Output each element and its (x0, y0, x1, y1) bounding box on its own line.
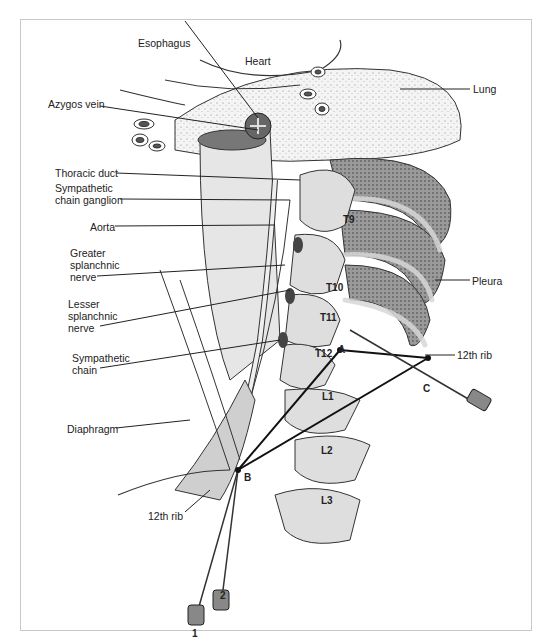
label-sympathetic-chain-1: Sympathetic (72, 352, 130, 364)
label-lung: Lung (473, 83, 496, 95)
label-heart: Heart (245, 55, 271, 67)
label-t12: T12 (315, 348, 332, 359)
label-t11: T11 (320, 312, 337, 323)
label-lesser-splanchnic-1: Lesser (68, 298, 100, 310)
label-greater-splanchnic-1: Greater (70, 247, 106, 259)
needle-label-1: 1 (192, 628, 198, 639)
label-lesser-splanchnic-3: nerve (68, 322, 94, 334)
diaphragm (175, 380, 255, 500)
label-12th-rib-left: 12th rib (148, 510, 183, 522)
label-l2: L2 (321, 445, 333, 456)
label-sympathetic-chain-ganglion-1: Sympathetic (55, 182, 113, 194)
label-pleura: Pleura (472, 275, 502, 287)
label-t10: T10 (326, 282, 343, 293)
label-diaphragm: Diaphragm (67, 423, 118, 435)
needle-hub-c (466, 388, 492, 411)
label-l3: L3 (321, 495, 333, 506)
label-l1: L1 (322, 391, 334, 402)
label-sympathetic-chain-2: chain (72, 364, 97, 376)
label-greater-splanchnic-2: splanchnic (70, 259, 120, 271)
label-greater-splanchnic-3: nerve (70, 271, 96, 283)
vertebra-l2 (295, 436, 370, 483)
label-thoracic-duct: Thoracic duct (55, 167, 118, 179)
label-lesser-splanchnic-2: splanchnic (68, 310, 118, 322)
label-esophagus: Esophagus (138, 37, 191, 49)
point-b: B (244, 472, 251, 483)
point-c: C (423, 383, 430, 394)
label-sympathetic-chain-ganglion-2: chain ganglion (55, 194, 123, 206)
label-aorta: Aorta (90, 221, 115, 233)
label-t9: T9 (343, 214, 355, 225)
point-a: A (338, 344, 345, 355)
needle-hub-1 (188, 605, 204, 625)
needle-label-2: 2 (220, 590, 226, 601)
vertebra-l3 (275, 489, 360, 544)
label-azygos-vein: Azygos vein (48, 98, 105, 110)
label-12th-rib-right: 12th rib (457, 349, 492, 361)
